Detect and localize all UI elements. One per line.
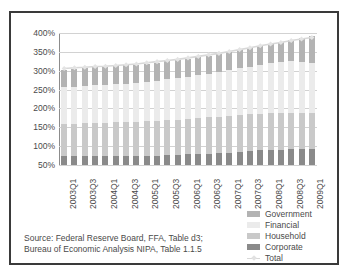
legend-line-marker-icon xyxy=(247,255,260,261)
total-line-marker xyxy=(196,54,201,59)
source-line-2: Bureau of Economic Analysis NIPA, Table … xyxy=(24,244,239,255)
total-line-marker xyxy=(154,59,159,64)
total-line-marker xyxy=(185,55,190,60)
total-line-path xyxy=(64,38,312,69)
total-line-marker xyxy=(247,45,252,50)
total-line-marker xyxy=(268,41,273,46)
total-line-marker xyxy=(144,60,149,65)
y-axis-tick-label: 200% xyxy=(15,104,55,112)
total-line-marker xyxy=(206,52,211,57)
x-axis-tick-label: 2008Q3 xyxy=(295,165,305,209)
x-axis-tick-label: 2004Q1 xyxy=(109,165,119,209)
total-line-marker xyxy=(82,65,87,70)
y-axis-tick-label: 350% xyxy=(15,48,55,56)
legend-item-total: Total xyxy=(247,253,339,264)
total-line-marker xyxy=(72,65,77,70)
total-line-marker xyxy=(93,64,98,69)
y-axis-tick-label: 150% xyxy=(15,123,55,131)
x-axis-tick-label: 2004Q3 xyxy=(130,165,140,209)
legend-swatch-icon xyxy=(247,222,260,228)
legend-item-household: Household xyxy=(247,231,339,242)
x-axis-tick-label: 2005Q1 xyxy=(150,165,160,209)
y-axis-tick-label: 400% xyxy=(15,29,55,37)
chart-figure: 50%100%150%200%250%300%350%400% 2003Q120… xyxy=(9,11,339,265)
total-line-marker xyxy=(134,61,139,66)
total-line-marker xyxy=(258,43,263,48)
total-line-marker xyxy=(289,38,294,43)
total-line-marker xyxy=(113,63,118,68)
source-line-1: Source: Federal Reserve Board, FFA, Tabl… xyxy=(24,233,239,244)
x-axis-tick-label: 2003Q3 xyxy=(88,165,98,209)
x-axis-tick-labels: 2003Q12003Q32004Q12004Q32005Q12005Q32006… xyxy=(59,167,317,213)
total-line-marker xyxy=(227,49,232,54)
plot-area: 50%100%150%200%250%300%350%400% xyxy=(59,33,317,165)
x-axis-tick-label: 2003Q1 xyxy=(68,165,78,209)
y-axis-tick-label: 50% xyxy=(15,161,55,169)
x-axis-tick-label: 2008Q1 xyxy=(274,165,284,209)
legend-label: Government xyxy=(265,210,312,219)
y-axis-tick-label: 300% xyxy=(15,67,55,75)
x-axis-tick-label: 2007Q1 xyxy=(233,165,243,209)
legend-label: Household xyxy=(265,232,306,241)
legend-label: Corporate xyxy=(265,243,303,252)
legend-item-corporate: Corporate xyxy=(247,242,339,253)
total-line-marker xyxy=(175,57,180,62)
total-line-series xyxy=(59,33,317,165)
total-line-marker xyxy=(62,66,67,71)
x-axis-tick-label: 2005Q3 xyxy=(171,165,181,209)
legend-swatch-icon xyxy=(247,211,260,217)
legend-label: Total xyxy=(265,254,283,263)
total-line-marker xyxy=(309,35,314,40)
legend-label: Financial xyxy=(265,221,299,230)
total-line-marker xyxy=(216,51,221,56)
x-axis-tick-label: 2006Q1 xyxy=(192,165,202,209)
total-line-marker xyxy=(165,58,170,63)
source-note: Source: Federal Reserve Board, FFA, Tabl… xyxy=(24,233,239,255)
x-axis-tick-label: 2007Q3 xyxy=(253,165,263,209)
chart-legend: GovernmentFinancialHouseholdCorporateTot… xyxy=(247,209,339,264)
total-line-marker xyxy=(103,64,108,69)
total-line-marker xyxy=(278,40,283,45)
total-line-marker xyxy=(237,47,242,52)
total-line-marker xyxy=(299,36,304,41)
legend-swatch-icon xyxy=(247,233,260,239)
legend-item-financial: Financial xyxy=(247,220,339,231)
y-axis-tick-label: 100% xyxy=(15,142,55,150)
legend-item-government: Government xyxy=(247,209,339,220)
y-axis-tick-label: 250% xyxy=(15,86,55,94)
total-line-marker xyxy=(124,62,129,67)
x-axis-tick-label: 2009Q1 xyxy=(315,165,325,209)
legend-swatch-icon xyxy=(247,244,260,250)
x-axis-tick-label: 2006Q3 xyxy=(212,165,222,209)
